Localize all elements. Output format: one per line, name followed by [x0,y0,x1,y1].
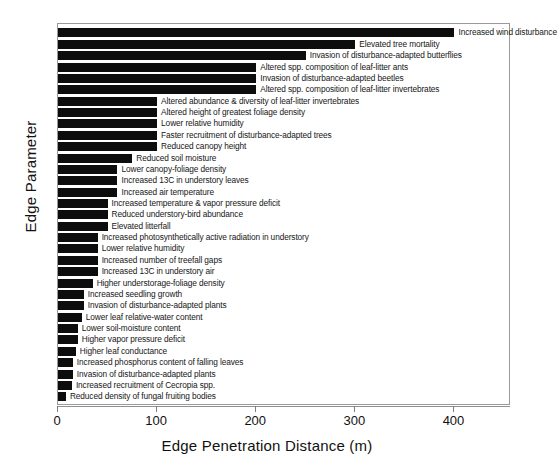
bar-row: Increased temperature & vapor pressure d… [58,199,280,209]
x-tick-mark [156,406,157,412]
bar-row: Invasion of disturbance-adapted butterfl… [58,51,462,61]
bar [58,313,82,322]
bar [58,85,256,94]
bar-label: Increased 13C in understory leaves [117,176,248,185]
x-tick-mark [354,406,355,412]
bar [58,335,78,344]
bar [58,244,98,253]
bar [58,176,117,185]
bar [58,154,132,163]
bar-label: Altered spp. composition of leaf-litter … [256,85,439,94]
bar [58,165,117,174]
bar-label: Increased air temperature [117,188,214,197]
bar [58,97,157,106]
bar [58,290,84,299]
bar-row: Increased phosphorus content of falling … [58,358,243,368]
bar [58,381,72,390]
bar-label: Lower relative humidity [157,119,244,128]
bar [58,301,84,310]
bar [58,267,98,276]
bar-row: Higher vapor pressure deficit [58,335,185,345]
bar-row: Elevated tree mortality [58,39,440,49]
bar-label: Increased phosphorus content of falling … [73,358,244,367]
bar-row: Reduced density of fungal fruiting bodie… [58,392,216,402]
bar-row: Reduced canopy height [58,142,246,152]
bar [58,40,355,49]
x-tick-label: 0 [53,413,60,428]
bar-label: Increased wind disturbance [454,28,556,37]
bar-row: Invasion of disturbance-adapted plants [58,369,216,379]
bar-label: Increased recruitment of Cecropia spp. [72,381,215,390]
bar-label: Reduced understory-bird abundance [108,210,243,219]
bar-row: Lower leaf relative-water content [58,312,202,322]
bar-row: Increased number of treefall gaps [58,255,222,265]
bar-row: Reduced soil moisture [58,153,216,163]
bar-row: Altered spp. composition of leaf-litter … [58,85,439,95]
bar-label: Altered abundance & diversity of leaf-li… [157,97,359,106]
bar-label: Increased number of treefall gaps [98,256,222,265]
x-axis-line [57,406,510,407]
bar-row: Invasion of disturbance-adapted beetles [58,73,403,83]
x-tick-label: 400 [443,413,465,428]
bar [58,74,256,83]
bar-label: Reduced soil moisture [132,154,216,163]
bar-row: Increased seedling growth [58,289,182,299]
bar-label: Increased photosynthetically active radi… [98,233,309,242]
bar [58,358,73,367]
bar [58,210,108,219]
bar [58,199,108,208]
bar-row: Higher understorage-foliage density [58,278,225,288]
bar-row: Increased air temperature [58,187,214,197]
y-axis-label: Edge Parameter [22,77,39,277]
bar [58,222,108,231]
bar [58,108,157,117]
x-axis-label: Edge Penetration Distance (m) [0,437,534,454]
bar [58,392,66,401]
bar [58,51,306,60]
x-tick-mark [255,406,256,412]
bar-label: Altered height of greatest foliage densi… [157,108,305,117]
bar-label: Reduced density of fungal fruiting bodie… [66,392,216,401]
bar-row: Altered abundance & diversity of leaf-li… [58,96,359,106]
bar [58,119,157,128]
bar-label: Elevated tree mortality [355,40,439,49]
bar-row: Increased wind disturbance [58,28,557,38]
bar-label: Reduced canopy height [157,142,246,151]
bar-row: Increased 13C in understory leaves [58,176,249,186]
bar-label: Altered spp. composition of leaf-litter … [256,63,408,72]
bar-label: Lower soil-moisture content [78,324,181,333]
bar-label: Invasion of disturbance-adapted beetles [256,74,403,83]
bar-label: Invasion of disturbance-adapted plants [84,301,227,310]
bar [58,142,157,151]
bar-label: Invasion of disturbance-adapted plants [73,370,216,379]
bar-label: Increased seedling growth [84,290,182,299]
bar [58,347,76,356]
bar [58,63,256,72]
bar-label: Higher leaf conductance [76,347,167,356]
bar-row: Lower canopy-foliage density [58,164,226,174]
bar-label: Elevated litterfall [108,222,171,231]
bar-row: Lower relative humidity [58,244,184,254]
bar-row: Elevated litterfall [58,221,171,231]
bar-label: Lower canopy-foliage density [117,165,226,174]
x-tick-mark [57,406,58,412]
bar [58,256,98,265]
bar-row: Altered height of greatest foliage densi… [58,108,305,118]
x-tick-label: 200 [244,413,266,428]
bar-label: Higher understorage-foliage density [93,279,225,288]
bar-label: Lower relative humidity [98,244,185,253]
bar-label: Increased temperature & vapor pressure d… [108,199,280,208]
bar-row: Lower soil-moisture content [58,324,181,334]
bar-label: Increased 13C in understory air [98,267,215,276]
bar-row: Increased photosynthetically active radi… [58,233,309,243]
bar-row: Increased 13C in understory air [58,267,214,277]
bar [58,370,73,379]
bar-label: Faster recruitment of disturbance-adapte… [157,131,332,140]
bar-label: Invasion of disturbance-adapted butterfl… [306,51,462,60]
plot-area: Increased wind disturbanceElevated tree … [57,23,510,405]
bar-row: Altered spp. composition of leaf-litter … [58,62,408,72]
bar-row: Higher leaf conductance [58,346,167,356]
bar-label: Higher vapor pressure deficit [78,335,185,344]
bar [58,131,157,140]
bar-row: Reduced understory-bird abundance [58,210,243,220]
